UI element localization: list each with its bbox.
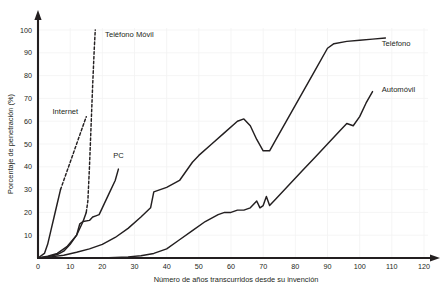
- x-tick-label: 50: [195, 262, 203, 271]
- series-label-teléfono-móvil: Teléfono Móvil: [105, 30, 154, 39]
- series-label-internet: Internet: [52, 107, 79, 116]
- x-tick-label: 20: [98, 262, 106, 271]
- y-tick-label: 50: [24, 140, 32, 149]
- y-tick-label: 10: [24, 231, 32, 240]
- x-tick-label: 110: [386, 262, 397, 271]
- x-tick-label: 80: [291, 262, 299, 271]
- y-tick-label: 100: [20, 26, 32, 35]
- series-annotations: TeléfonoAutomóvilPCInternetTeléfono Móvi…: [52, 30, 415, 160]
- y-tick-labels: 102030405060708090100: [20, 26, 32, 240]
- series-label-automóvil: Automóvil: [382, 85, 416, 94]
- x-tick-label: 100: [354, 262, 366, 271]
- y-tick-label: 90: [24, 48, 32, 57]
- x-tick-label: 0: [36, 262, 40, 271]
- series-line-pc: [38, 169, 118, 258]
- x-axis-arrow: [430, 254, 440, 261]
- y-tick-label: 30: [24, 185, 32, 194]
- y-tick-label: 70: [24, 94, 32, 103]
- x-axis-title: Número de años transcurridos desde su in…: [154, 275, 319, 284]
- x-tick-label: 70: [259, 262, 267, 271]
- y-tick-label: 40: [24, 162, 32, 171]
- series-label-teléfono: Teléfono: [382, 39, 411, 48]
- y-tick-label: 60: [24, 117, 32, 126]
- gridlines: [38, 28, 428, 258]
- y-axis-arrow: [34, 10, 41, 20]
- series-label-pc: PC: [113, 151, 124, 160]
- y-tick-label: 20: [24, 208, 32, 217]
- y-tick-label: 80: [24, 71, 32, 80]
- series-line-internet-dashed: [61, 117, 87, 190]
- x-tick-label: 40: [163, 262, 171, 271]
- series-line-automóvil: [38, 92, 373, 258]
- chart-canvas: 0102030405060708090100110120 10203040506…: [0, 0, 445, 291]
- x-tick-label: 90: [324, 262, 332, 271]
- series-line-internet-solid: [38, 190, 61, 258]
- x-tick-label: 120: [418, 262, 430, 271]
- x-tick-label: 30: [131, 262, 139, 271]
- y-axis-title: Porcentaje de penetración (%): [6, 94, 15, 194]
- x-tick-label: 60: [227, 262, 235, 271]
- penetration-rate-chart: 0102030405060708090100110120 10203040506…: [0, 0, 445, 291]
- x-tick-labels: 0102030405060708090100110120: [36, 262, 430, 271]
- axes: [34, 10, 440, 262]
- x-tick-label: 10: [66, 262, 74, 271]
